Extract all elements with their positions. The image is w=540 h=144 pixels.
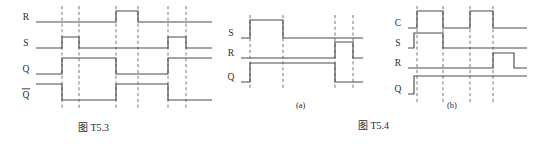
waveform-fig-t54b-Q: [408, 76, 527, 94]
signal-label-fig-t54b-C: C: [395, 18, 401, 28]
figure-caption-t54: 图 T5.4: [358, 117, 389, 132]
figure-sheet: RSQQSRQCSRQ 图 T5.3 图 T5.4 (a) (b): [0, 0, 540, 144]
signal-label-fig-t54a-S: S: [228, 28, 233, 38]
signal-label-fig-t53-S: S: [23, 38, 28, 48]
signal-label-fig-t53-Qbar: Q: [23, 90, 30, 100]
sub-caption-a: (a): [296, 100, 305, 110]
waveform-fig-t54a-S: [241, 20, 363, 38]
waveform-fig-t54a-R: [241, 42, 363, 58]
signal-label-fig-t54a-R: R: [228, 48, 235, 58]
waveform-fig-t53-S: [36, 37, 212, 48]
sub-caption-b: (b): [447, 100, 457, 110]
signal-label-fig-t54b-S: S: [395, 38, 400, 48]
waveform-fig-t54a-Q: [241, 63, 363, 82]
signal-label-fig-t54a-Q: Q: [228, 72, 235, 82]
timing-diagram-fig-t53: RSQQ: [22, 6, 212, 108]
signal-label-fig-t53-R: R: [23, 12, 30, 22]
signal-label-fig-t54b-Q: Q: [395, 84, 402, 94]
waveform-fig-t54b-R: [408, 53, 527, 68]
timing-diagram-fig-t54b: CSRQ: [395, 6, 527, 102]
figure-caption-t53: 图 T5.3: [78, 119, 109, 134]
waveform-fig-t54b-C: [408, 11, 527, 28]
signal-label-fig-t53-Q: Q: [23, 64, 30, 74]
timing-diagram-fig-t54a: SRQ: [228, 15, 363, 90]
signal-label-fig-t54b-R: R: [395, 58, 402, 68]
waveform-fig-t53-Qbar: [36, 84, 212, 100]
waveform-fig-t54b-S: [408, 33, 527, 48]
